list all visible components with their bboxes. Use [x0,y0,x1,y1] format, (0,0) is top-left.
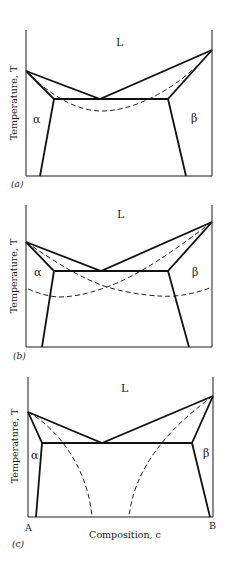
liquid-label: L [116,36,124,49]
dashed-curve-right [26,222,212,297]
dashed-curve-left [26,242,212,296]
x-axis-left-end-label: A [24,522,32,533]
panel-b: L α β Temperature, T (b) [8,205,212,361]
beta-solidus-solvus [168,50,212,176]
eutectic-phase-diagram-figure: L α β Temperature, T (a) L α β Temperatu… [0,0,228,573]
liquidus-line [26,50,212,99]
liquidus-line [26,222,212,271]
beta-label: β [192,266,198,279]
alpha-label: α [33,113,41,126]
panel-label: (b) [13,351,26,361]
panel-label: (a) [11,179,24,189]
panel-c: L α β Temperature, T A B Composition, c … [9,377,216,549]
y-axis-label: Temperature, T [8,238,19,313]
panel-a: L α β Temperature, T (a) [8,30,212,189]
liquidus-line [28,396,213,443]
x-axis-right-end-label: B [209,520,216,531]
y-axis-label: Temperature, T [9,408,20,483]
liquid-label: L [117,208,125,221]
alpha-solidus-solvus [28,412,42,517]
y-axis-label: Temperature, T [8,65,19,140]
alpha-label: α [31,449,39,462]
liquid-label: L [121,382,129,395]
beta-label: β [191,112,197,125]
beta-solidus-solvus [168,222,212,347]
beta-label: β [203,447,209,460]
panel-label: (c) [12,539,25,549]
alpha-label: α [34,266,42,279]
x-axis-label: Composition, c [89,529,161,540]
